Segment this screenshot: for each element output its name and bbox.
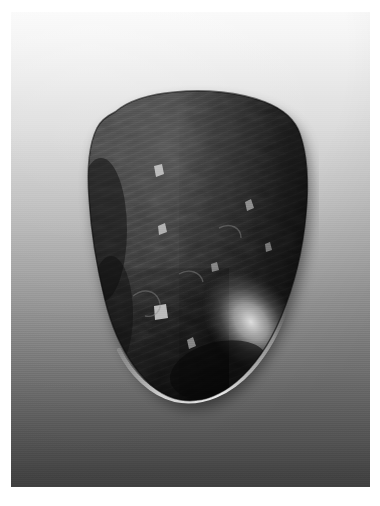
screenshot-root (0, 0, 380, 506)
stone-subject (59, 78, 319, 423)
stone-illustration (59, 78, 319, 423)
photo-plate (11, 12, 370, 487)
stone-body (59, 78, 319, 423)
